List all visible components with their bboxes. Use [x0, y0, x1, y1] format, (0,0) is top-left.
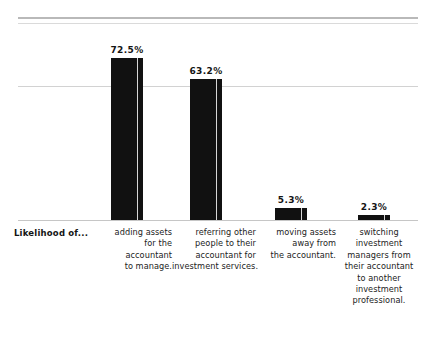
bar-value-label-2: 5.3% — [278, 195, 305, 205]
bar-highlight-stripe — [216, 79, 217, 220]
bar-1[interactable] — [190, 79, 222, 220]
category-label-line: people to their — [172, 238, 256, 249]
category-label-line: adding assets — [96, 227, 172, 238]
category-label-line: accountant — [96, 250, 172, 261]
category-label-3: switching investment managers from their… — [336, 227, 422, 307]
bar-chart: 72.5% 63.2% 5.3% — [0, 0, 430, 340]
plot-area: 72.5% 63.2% 5.3% — [0, 0, 430, 222]
category-label-line: investment — [336, 284, 422, 295]
bar-0[interactable] — [111, 58, 143, 220]
bar-value-label-1: 63.2% — [189, 66, 222, 76]
category-label-line: moving assets — [256, 227, 336, 238]
bar-value-label-3: 2.3% — [361, 202, 388, 212]
bar-highlight-stripe — [384, 215, 385, 220]
category-label-line: investment services. — [172, 261, 256, 272]
bar-group-0[interactable]: 72.5% — [87, 0, 167, 220]
bar-highlight-stripe — [301, 208, 302, 220]
category-label-1: referring other people to their accounta… — [172, 227, 256, 273]
bar-group-3[interactable]: 2.3% — [334, 0, 414, 220]
category-label-line: professional. — [336, 295, 422, 306]
bar-group-2[interactable]: 5.3% — [251, 0, 331, 220]
bar-2[interactable] — [275, 208, 307, 220]
category-label-line: their accountant — [336, 261, 422, 272]
bar-highlight-stripe — [137, 58, 138, 220]
category-label-line: away from — [256, 238, 336, 249]
category-label-line: for the — [96, 238, 172, 249]
category-label-line: managers from — [336, 250, 422, 261]
category-label-line: switching — [336, 227, 422, 238]
category-label-0: adding assets for the accountant to mana… — [96, 227, 172, 273]
category-label-line: to another — [336, 273, 422, 284]
bars-layer: 72.5% 63.2% 5.3% — [0, 0, 430, 221]
category-label-2: moving assets away from the accountant. — [256, 227, 336, 261]
category-label-line: accountant for — [172, 250, 256, 261]
bar-3[interactable] — [358, 215, 390, 220]
category-label-line: investment — [336, 238, 422, 249]
bar-value-label-0: 72.5% — [110, 45, 143, 55]
category-label-line: referring other — [172, 227, 256, 238]
category-labels-row: Likelihood of... adding assets for the a… — [0, 224, 430, 336]
bar-group-1[interactable]: 63.2% — [166, 0, 246, 220]
category-label-line: the accountant. — [256, 250, 336, 261]
category-label-line: to manage. — [96, 261, 172, 272]
row-title: Likelihood of... — [14, 228, 96, 238]
